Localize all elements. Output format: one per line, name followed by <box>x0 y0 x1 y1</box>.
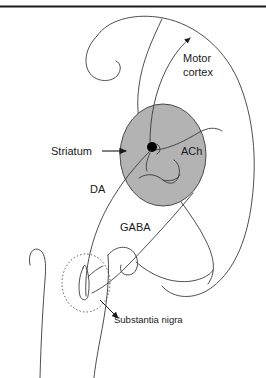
cerebellar-sweep <box>136 262 213 282</box>
striatum-label: Striatum <box>51 145 92 157</box>
da-label: DA <box>90 183 106 195</box>
ach-label: ACh <box>181 145 202 157</box>
motor-cortex-label-line2: cortex <box>183 66 213 78</box>
brainstem-left-curve <box>29 249 45 378</box>
figure-container: Striatum ACh DA GABA Motor cortex Substa… <box>0 0 266 378</box>
substantia-nigra-label: Substantia nigra <box>114 314 183 325</box>
nigral-neuron-group <box>79 265 103 300</box>
nigral-soma <box>79 265 89 300</box>
diagram-canvas: Striatum ACh DA GABA Motor cortex Substa… <box>0 0 266 378</box>
gaba-label: GABA <box>120 221 151 233</box>
brainstem-outline-group <box>29 247 213 378</box>
brainstem-central-stalk <box>94 255 109 378</box>
cortical-sulcus-hook <box>86 36 120 81</box>
nigral-dendrite <box>88 266 103 277</box>
striatal-neuron-soma <box>147 142 157 152</box>
motor-cortex-label-line1: Motor <box>183 52 211 64</box>
